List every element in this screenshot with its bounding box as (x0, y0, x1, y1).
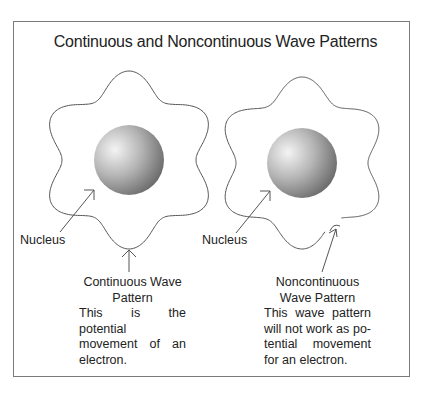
caption-heading-line2: Pattern (79, 291, 186, 307)
caption-continuous: Continuous Wave Pattern This is the pote… (79, 275, 186, 368)
caption-heading-line1: Noncontinuous (264, 275, 371, 291)
caption-noncontinuous: Noncontinuous Wave Pattern This wave pat… (264, 275, 371, 368)
nucleus-right (267, 128, 337, 198)
nucleus-arrow-left (60, 190, 94, 232)
wave-arrow-left (122, 250, 136, 272)
nucleus-arrow-right (236, 191, 270, 233)
nucleus-label-right: Nucleus (202, 233, 247, 248)
wave-arrow-right (322, 229, 337, 272)
caption-heading-line1: Continuous Wave (79, 275, 186, 291)
caption-heading-line2: Wave Pattern (264, 291, 371, 307)
nucleus-label-left: Nucleus (20, 233, 65, 248)
caption-body: This wave pattern will not work as po- t… (264, 306, 371, 368)
caption-body: This is the potential movement of an ele… (79, 306, 186, 368)
nucleus-left (94, 125, 164, 195)
